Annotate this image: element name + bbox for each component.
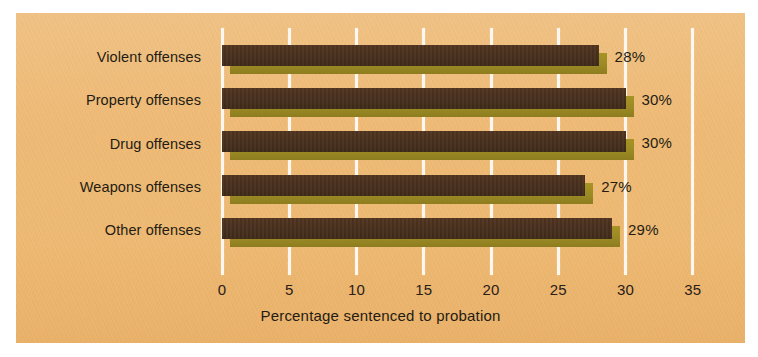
value-label-other-offenses: 29% [628,221,659,238]
x-tick-label-5: 5 [269,281,309,298]
bar-face-property-offenses [222,88,626,109]
x-tick-label-10: 10 [337,281,377,298]
category-label-violent-offenses: Violent offenses [26,49,201,65]
category-label-weapons-offenses: Weapons offenses [26,179,201,195]
bar-face-other-offenses [222,218,612,239]
x-tick-label-15: 15 [404,281,444,298]
x-tick-label-30: 30 [606,281,646,298]
plot-area: Violent offenses Property offenses Drug … [16,13,745,343]
bar-face-violent-offenses [222,45,599,66]
bar-other-offenses [222,218,620,247]
gridline-35 [691,28,694,275]
bar-violent-offenses [222,45,607,74]
bar-property-offenses [222,88,634,117]
x-tick-label-0: 0 [202,281,242,298]
bar-weapons-offenses [222,175,593,204]
chart-panel: Violent offenses Property offenses Drug … [16,13,745,343]
x-axis-title: Percentage sentenced to probation [16,307,745,324]
bar-drug-offenses [222,131,634,160]
x-tick-label-25: 25 [538,281,578,298]
bar-face-drug-offenses [222,131,626,152]
value-label-drug-offenses: 30% [642,134,673,151]
category-label-drug-offenses: Drug offenses [26,136,201,152]
x-tick-label-20: 20 [471,281,511,298]
x-tick-label-35: 35 [673,281,713,298]
value-label-property-offenses: 30% [642,91,673,108]
bar-face-weapons-offenses [222,175,585,196]
category-label-property-offenses: Property offenses [26,92,201,108]
category-label-other-offenses: Other offenses [26,222,201,238]
chart-screenshot: Violent offenses Property offenses Drug … [0,0,758,357]
value-label-weapons-offenses: 27% [601,178,632,195]
value-label-violent-offenses: 28% [615,48,646,65]
